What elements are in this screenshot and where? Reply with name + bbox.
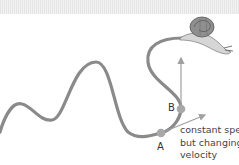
annotation-line-2: but changing <box>180 137 239 150</box>
snail-icon <box>180 17 233 54</box>
velocity-annotation: constant speed but changing velocity <box>180 124 239 162</box>
annotation-line-1: constant speed <box>180 124 239 137</box>
point-b-marker <box>177 105 186 114</box>
point-b-label: B <box>168 102 175 114</box>
point-a-label: A <box>157 141 164 153</box>
annotation-line-3: velocity <box>180 149 239 162</box>
point-a-marker <box>157 129 166 138</box>
